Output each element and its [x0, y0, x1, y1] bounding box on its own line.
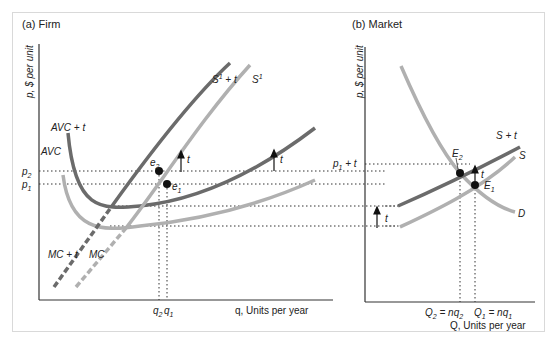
mc-label: MC	[89, 249, 105, 260]
d-label: D	[518, 208, 525, 219]
market-x-axis-label: Q, Units per year	[450, 320, 526, 331]
market-t-label-1: t	[481, 169, 485, 180]
q2-label: q2	[153, 305, 163, 318]
market-title: (b) Market	[352, 18, 402, 30]
p1-plus-t-label: p1 + t	[332, 158, 358, 171]
market-guide-lines	[365, 164, 475, 302]
mc-plus-t-label: MC + t	[48, 249, 79, 260]
firm-x-axis-label: q, Units per year	[235, 305, 309, 316]
s-label: S	[519, 150, 526, 161]
avc-plus-t-label: AVC + t	[50, 122, 86, 133]
p2-label: p2	[21, 166, 32, 179]
market-t-label-2: t	[385, 213, 389, 224]
q1-label: q1	[164, 305, 174, 318]
firm-t-label-1: t	[187, 154, 191, 165]
s-plus-t-label: S + t	[496, 130, 518, 141]
E1-point	[471, 181, 479, 189]
firm-tax-arrows	[178, 150, 277, 172]
mc-curve	[126, 65, 250, 228]
e2-label: e2	[150, 157, 160, 170]
market-panel: (b) Market p, $ per unit S + t S D E	[332, 18, 535, 331]
firm-title: (a) Firm	[22, 18, 61, 30]
E1-label: E1	[484, 180, 495, 193]
E2-label: E2	[452, 148, 463, 161]
Q2-label: Q2 = nq2	[425, 307, 463, 320]
s1-plus-t-label: S1 + t	[212, 73, 238, 85]
s1-label: S1	[252, 73, 263, 85]
E2-point	[456, 169, 464, 177]
avc-label: AVC	[40, 146, 62, 157]
Q1-label: Q1 = nq1	[474, 307, 512, 320]
firm-t-label-2: t	[280, 154, 284, 165]
e1-label: e1	[172, 181, 182, 194]
figure-svg: (a) Firm p, $ per unit	[0, 0, 555, 345]
firm-y-axis-label: p, $ per unit	[24, 44, 35, 99]
p1-label: p1	[21, 179, 32, 192]
e1-point	[163, 180, 171, 188]
market-y-axis-label: p, $ per unit	[354, 44, 365, 99]
